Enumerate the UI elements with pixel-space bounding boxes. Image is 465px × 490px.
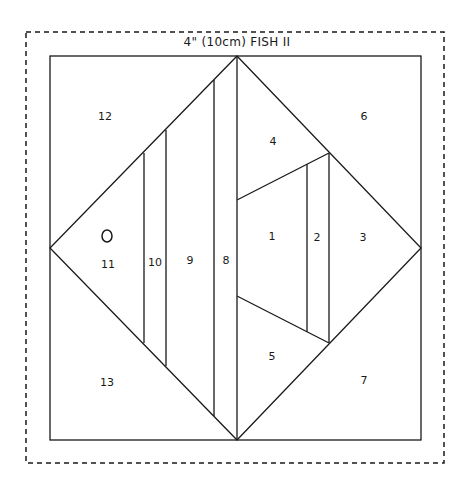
section-label-4: 4 bbox=[270, 135, 277, 148]
section-label-7: 7 bbox=[361, 374, 368, 387]
section-label-10: 10 bbox=[148, 256, 162, 269]
seam-1-4 bbox=[237, 153, 329, 200]
diagram-title: 4" (10cm) FISH II bbox=[0, 35, 465, 49]
section-label-1: 1 bbox=[269, 230, 276, 243]
outer-cut-line bbox=[26, 32, 444, 463]
fish-block-pattern bbox=[0, 0, 465, 490]
section-label-5: 5 bbox=[269, 350, 276, 363]
section-label-3: 3 bbox=[360, 231, 367, 244]
section-label-2: 2 bbox=[314, 231, 321, 244]
section-label-9: 9 bbox=[187, 254, 194, 267]
section-label-12: 12 bbox=[98, 110, 112, 123]
section-label-13: 13 bbox=[100, 376, 114, 389]
section-label-8: 8 bbox=[223, 254, 230, 267]
fish-eye-icon bbox=[102, 230, 112, 242]
seam-1-5 bbox=[237, 296, 329, 343]
section-label-6: 6 bbox=[361, 110, 368, 123]
section-label-11: 11 bbox=[101, 258, 115, 271]
